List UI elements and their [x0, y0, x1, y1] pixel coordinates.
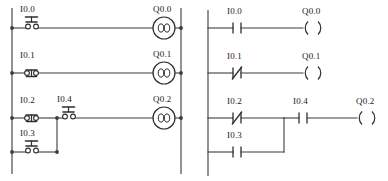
relay-coil-icon[interactable]: [153, 62, 175, 84]
ladder-rung-3: I0.2 I0.3 I0.4: [208, 96, 375, 158]
pushbutton-nc-icon[interactable]: [25, 115, 39, 122]
schematic-input-label: I0.0: [20, 4, 35, 14]
coil-output-icon[interactable]: [359, 112, 375, 125]
contact-normally-open-icon[interactable]: [233, 147, 241, 158]
ladder-contact-label: I0.2: [227, 96, 242, 106]
ladder-rung-1: I0.0 Q0.0: [208, 6, 321, 35]
pushbutton-no-icon[interactable]: [26, 141, 39, 153]
coil-output-icon[interactable]: [305, 22, 321, 35]
schematic-output-label: Q0.1: [153, 49, 172, 59]
relay-coil-icon[interactable]: [153, 17, 175, 39]
pushbutton-nc-icon[interactable]: [25, 70, 39, 77]
schematic-rung-2: I0.1 Q0.1: [10, 49, 183, 84]
contact-normally-open-icon[interactable]: [299, 113, 307, 124]
ladder-contact-label: I0.1: [227, 51, 242, 61]
schematic-rung-1: I0.0 Q0.0: [10, 4, 183, 39]
schematic-input-label: I0.1: [20, 50, 35, 60]
plc-diagram-figure: I0.0 Q0.0: [0, 0, 388, 181]
pushbutton-no-icon[interactable]: [63, 107, 76, 119]
diagram-canvas: I0.0 Q0.0: [0, 0, 388, 181]
schematic-input-label: I0.2: [20, 95, 35, 105]
schematic-input-label: I0.3: [20, 128, 35, 138]
schematic-output-label: Q0.0: [153, 4, 172, 14]
contact-normally-open-icon[interactable]: [233, 23, 241, 34]
schematic-output-label: Q0.2: [153, 94, 172, 104]
pushbutton-no-icon[interactable]: [26, 17, 39, 29]
ladder-coil-label: Q0.2: [356, 96, 375, 106]
electrical-schematic-panel: I0.0 Q0.0: [10, 4, 183, 174]
ladder-contact-label: I0.0: [227, 6, 242, 16]
schematic-rung-3: I0.2 I0.3 I0.4: [10, 94, 183, 154]
ladder-contact-label: I0.3: [227, 130, 242, 140]
ladder-rung-2: I0.1 Q0.1: [208, 51, 321, 80]
ladder-contact-label: I0.4: [293, 96, 308, 106]
ladder-coil-label: Q0.1: [302, 51, 321, 61]
ladder-coil-label: Q0.0: [302, 6, 321, 16]
ladder-logic-panel: I0.0 Q0.0 I0.1 Q0.1: [208, 6, 375, 176]
coil-output-icon[interactable]: [305, 67, 321, 80]
relay-coil-icon[interactable]: [153, 107, 175, 129]
schematic-input-label: I0.4: [57, 94, 72, 104]
